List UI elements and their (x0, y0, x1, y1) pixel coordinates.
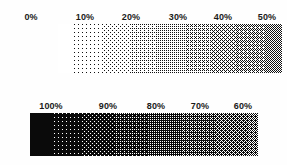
halftone-band-bottom (30, 113, 258, 156)
halftone-band-top (58, 24, 282, 73)
tick-label-bottom-80: 80% (147, 101, 165, 112)
tick-label-bottom-70: 70% (191, 101, 209, 112)
tick-label-row-bottom: 100%90%80%70%60% (0, 83, 287, 105)
tick-label-bottom-90: 90% (99, 101, 117, 112)
tick-label-bottom-100: 100% (39, 101, 62, 112)
halftone-density-chart: 0%10%20%30%40%50% 100%90%80%70%60% (0, 0, 287, 165)
density-band-group-top: 0%10%20%30%40%50% (0, 0, 287, 82)
halftone-band-top-canvas (58, 24, 282, 73)
density-band-group-bottom: 100%90%80%70%60% (0, 83, 287, 165)
tick-label-row-top: 0%10%20%30%40%50% (0, 0, 287, 22)
tick-label-top-0: 0% (24, 12, 37, 23)
halftone-band-bottom-canvas (30, 113, 258, 156)
tick-label-top-10: 10% (76, 12, 94, 23)
tick-label-top-50: 50% (258, 12, 276, 23)
tick-label-bottom-60: 60% (234, 101, 252, 112)
tick-label-top-20: 20% (122, 12, 140, 23)
tick-label-top-40: 40% (214, 12, 232, 23)
tick-label-top-30: 30% (169, 12, 187, 23)
